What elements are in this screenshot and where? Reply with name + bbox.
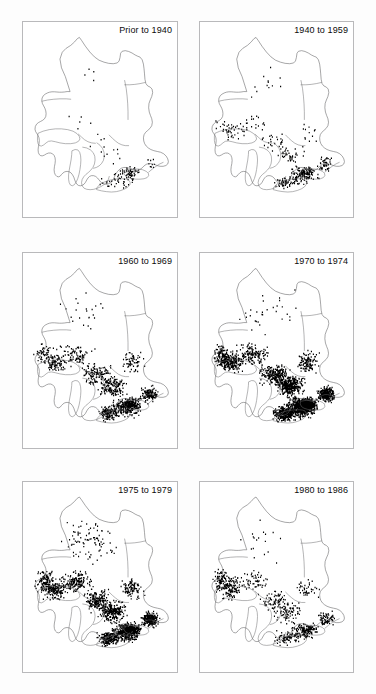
lake-outline-9	[125, 81, 128, 120]
map-area	[200, 482, 353, 672]
great-lakes-outlines	[214, 81, 339, 193]
occurrence-dots	[214, 289, 335, 422]
ontario-map-svg	[200, 22, 353, 217]
map-area	[200, 253, 353, 448]
panel-period-label: 1940 to 1959	[294, 25, 348, 36]
lake-outline-4	[97, 179, 130, 192]
map-area	[200, 22, 353, 217]
lake-outline-0	[214, 586, 256, 603]
ontario-map-svg	[200, 253, 353, 448]
panel-period-label: Prior to 1940	[119, 25, 172, 36]
map-area	[23, 22, 177, 217]
lake-outline-10	[301, 313, 322, 315]
lake-outline-9	[125, 539, 128, 577]
lake-outline-9	[125, 312, 128, 351]
panel-period-label: 1960 to 1969	[118, 256, 172, 267]
lake-outline-10	[125, 541, 146, 543]
panel-period-label: 1980 to 1986	[294, 485, 348, 496]
lake-outline-10	[301, 82, 322, 84]
panel-period-label: 1970 to 1974	[294, 256, 348, 267]
lake-outline-9	[301, 312, 304, 351]
lake-outline-9	[301, 539, 304, 577]
lake-outline-8	[286, 135, 305, 146]
map-panel-1970-to-1974: 1970 to 1974	[199, 252, 354, 449]
lake-outline-7	[255, 591, 272, 600]
dot-layer	[69, 69, 156, 189]
lake-outline-11	[219, 330, 247, 332]
lake-outline-0	[37, 129, 80, 146]
occurrence-dots	[69, 69, 156, 189]
occurrence-dots	[215, 67, 332, 189]
figure-canvas: Prior to 19401940 to 19591960 to 1969197…	[0, 0, 376, 694]
map-area	[23, 253, 177, 448]
lake-outline-0	[214, 129, 256, 146]
map-panel-prior-to-1940: Prior to 1940	[22, 21, 178, 218]
lake-outline-10	[125, 82, 146, 84]
map-area	[23, 482, 177, 672]
lake-outline-11	[42, 557, 71, 559]
lake-outline-8	[109, 366, 128, 377]
dot-layer	[215, 67, 332, 189]
map-panel-1980-to-1986: 1980 to 1986	[199, 481, 354, 673]
panel-period-label: 1975 to 1979	[118, 485, 172, 496]
lake-outline-11	[42, 330, 71, 332]
dot-layer	[214, 289, 335, 422]
great-lakes-outlines	[37, 81, 163, 193]
lake-outline-11	[42, 99, 71, 101]
lake-outline-2	[258, 147, 286, 190]
lake-outline-8	[109, 592, 128, 602]
lake-outline-8	[109, 135, 128, 146]
lake-outline-7	[78, 134, 95, 143]
lake-outline-9	[301, 81, 304, 120]
ontario-map-svg	[23, 22, 177, 217]
lake-outline-2	[258, 604, 286, 645]
lake-outline-2	[82, 147, 110, 190]
map-panel-1975-to-1979: 1975 to 1979	[22, 481, 178, 673]
map-panel-1940-to-1959: 1940 to 1959	[199, 21, 354, 218]
lake-outline-8	[286, 592, 305, 602]
ontario-map-svg	[23, 253, 177, 448]
ontario-map-svg	[23, 482, 177, 672]
dot-layer	[34, 521, 160, 647]
lake-outline-3	[94, 143, 105, 168]
dot-layer	[33, 292, 158, 423]
ontario-map-svg	[200, 482, 353, 672]
lake-outline-10	[301, 541, 322, 543]
occurrence-dots	[34, 521, 160, 647]
lake-outline-11	[219, 557, 247, 559]
map-panel-1960-to-1969: 1960 to 1969	[22, 252, 178, 449]
lake-outline-10	[125, 313, 146, 315]
lake-outline-11	[219, 99, 247, 101]
occurrence-dots	[33, 292, 158, 423]
